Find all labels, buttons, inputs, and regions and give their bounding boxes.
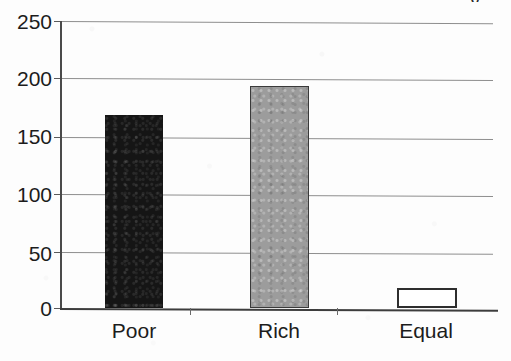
x-axis-line [60,308,498,312]
y-tick-label-0: 0 [6,298,52,319]
bar-equal [397,288,457,308]
y-axis-line [60,21,62,309]
x-tick-label-equal: Equal [399,320,453,342]
gridline-200 [60,78,493,81]
y-tick-label-50: 50 [6,243,52,264]
x-tick-label-rich: Rich [258,320,300,342]
x-tick-mark-1 [190,308,191,315]
gridline-250 [60,21,493,24]
x-tick-mark-2 [337,308,338,315]
plot-area: Poor Rich Equal [60,0,498,361]
bar-chart-figure: y 250 200 150 100 50 0 Poor [0,0,511,361]
y-tick-label-250: 250 [6,11,52,32]
y-tick-label-150: 150 [6,126,52,147]
bar-rich [250,86,309,308]
y-tick-label-100: 100 [6,184,52,205]
bar-poor [105,115,163,308]
y-tick-label-200: 200 [6,68,52,89]
x-tick-label-poor: Poor [112,320,156,342]
y-axis-labels: 250 200 150 100 50 0 [0,0,52,361]
